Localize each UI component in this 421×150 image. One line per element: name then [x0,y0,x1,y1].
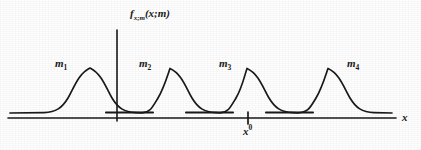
y-axis-label: fx;m(x;m) [130,8,170,19]
curve-label-m4: m4 [347,58,359,72]
density-curve-path [10,68,392,113]
curve-label-m3: m3 [219,58,231,72]
curve-label-m2-name: m [139,57,148,69]
figure-canvas [0,0,421,150]
probability-density-figure: fx;m(x;m) m1 m2 m3 m4 x0 x [0,0,421,150]
curve-label-m2: m2 [139,58,151,72]
curve-label-m1-sub: 1 [64,63,68,72]
x0-axis-label: x0 [243,124,252,137]
curve-label-m4-sub: 4 [356,63,360,72]
y-axis-label-args: (x;m) [145,7,170,19]
curve-label-m4-name: m [347,57,356,69]
x0-axis-label-superscript: 0 [249,123,253,132]
curve-label-m3-name: m [219,57,228,69]
x-axis-label: x [402,112,408,123]
curve-label-m1-name: m [55,57,64,69]
curve-label-m3-sub: 3 [228,63,232,72]
curve-label-m1: m1 [55,58,67,72]
curve-label-m2-sub: 2 [148,63,152,72]
y-axis-label-subscript: x;m [134,14,145,22]
